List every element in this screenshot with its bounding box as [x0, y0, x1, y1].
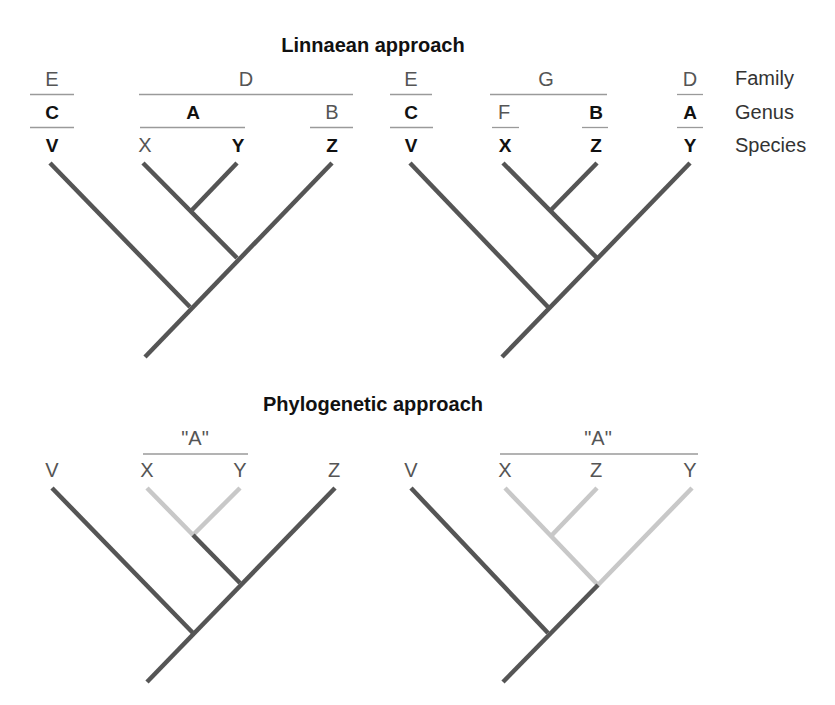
family-label: D	[683, 68, 697, 90]
tree-linnaean-1	[50, 163, 332, 357]
family-label: E	[45, 68, 58, 90]
clade-label: "A"	[181, 427, 209, 449]
species-label: X	[140, 459, 153, 481]
species-label: Z	[326, 135, 338, 156]
tree-branch	[50, 163, 190, 307]
species-label: X	[499, 135, 512, 156]
family-label: D	[239, 68, 253, 90]
species-label: V	[46, 135, 59, 156]
species-label: Y	[683, 459, 696, 481]
genus-label: C	[45, 102, 59, 123]
genus-label: A	[683, 102, 697, 123]
tree-branch	[598, 488, 692, 585]
species-label: V	[404, 459, 418, 481]
taxon-labels: EDCABVXYZEGDCFBAVXZY"A"VXYZ"A"VXZY	[30, 68, 703, 481]
genus-label: B	[589, 102, 603, 123]
tree-phylogenetic-2	[411, 488, 692, 682]
species-label: X	[498, 459, 511, 481]
species-label: Z	[328, 459, 340, 481]
row-label-family: Family	[735, 67, 794, 89]
tree-phylogenetic-1	[52, 488, 335, 682]
genus-label: A	[186, 102, 200, 123]
species-label: Z	[590, 459, 602, 481]
tree-branch	[193, 488, 240, 535]
tree-branch	[147, 488, 193, 535]
species-label: X	[138, 134, 151, 156]
tree-branch	[52, 488, 193, 633]
species-label: Y	[684, 135, 697, 156]
phylogenetic-title: Phylogenetic approach	[263, 393, 483, 415]
phylogeny-diagram: Linnaean approach Phylogenetic approach …	[0, 0, 835, 705]
species-label: Y	[232, 135, 245, 156]
tree-branch	[192, 163, 237, 210]
clade-label: "A"	[584, 427, 612, 449]
tree-branch	[552, 488, 597, 535]
species-label: V	[45, 459, 59, 481]
tree-branch	[193, 535, 240, 583]
tree-branch	[551, 163, 597, 210]
species-label: Y	[233, 459, 246, 481]
linnaean-title: Linnaean approach	[281, 34, 464, 56]
genus-label: C	[404, 102, 418, 123]
family-label: G	[538, 68, 554, 90]
row-label-species: Species	[735, 134, 806, 156]
tree-linnaean-2	[410, 163, 690, 357]
species-label: Z	[590, 135, 602, 156]
genus-label: F	[498, 101, 510, 123]
species-label: V	[405, 135, 418, 156]
genus-label: B	[325, 101, 338, 123]
tree-branches	[50, 163, 692, 682]
family-label: E	[404, 68, 417, 90]
row-label-genus: Genus	[735, 101, 794, 123]
